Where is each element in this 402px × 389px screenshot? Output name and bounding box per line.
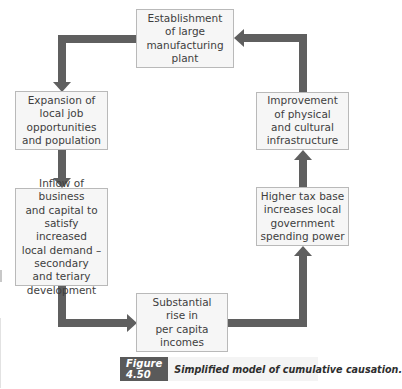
arrow-right1-to-top bbox=[241, 38, 303, 92]
node-label: Higher tax base increases local governme… bbox=[261, 190, 345, 243]
figure-caption: Figure 4.50 Simplified model of cumulati… bbox=[120, 357, 318, 381]
arrow-bottom-to-right2 bbox=[228, 253, 303, 323]
node-label: Establishment of large manufacturing pla… bbox=[146, 12, 223, 65]
node-establishment-of-plant: Establishment of large manufacturing pla… bbox=[136, 9, 234, 68]
node-higher-tax-base: Higher tax base increases local governme… bbox=[256, 187, 349, 246]
page-edge-mark bbox=[0, 318, 1, 388]
node-improvement-of-infrastructure: Improvement of physical and cultural inf… bbox=[256, 92, 349, 150]
node-label: Inflow of business and capital to satisf… bbox=[19, 177, 104, 297]
page-edge-mark bbox=[0, 270, 2, 282]
node-label: Improvement of physical and cultural inf… bbox=[267, 94, 339, 147]
node-inflow-of-business: Inflow of business and capital to satisf… bbox=[15, 188, 108, 286]
figure-title: Simplified model of cumulative causation… bbox=[168, 364, 402, 375]
arrowhead-up-right1 bbox=[294, 150, 312, 160]
arrowhead-left-top bbox=[234, 29, 244, 47]
node-label: Expansion of local job opportunities and… bbox=[22, 94, 101, 147]
node-expansion-of-jobs: Expansion of local job opportunities and… bbox=[15, 91, 108, 150]
arrow-top-to-left1 bbox=[62, 39, 136, 84]
arrowhead-up-right2 bbox=[294, 246, 312, 256]
node-label: Substantial rise in per capita incomes bbox=[152, 296, 211, 349]
node-rise-in-incomes: Substantial rise in per capita incomes bbox=[136, 293, 228, 352]
figure-number: Figure 4.50 bbox=[120, 357, 168, 381]
